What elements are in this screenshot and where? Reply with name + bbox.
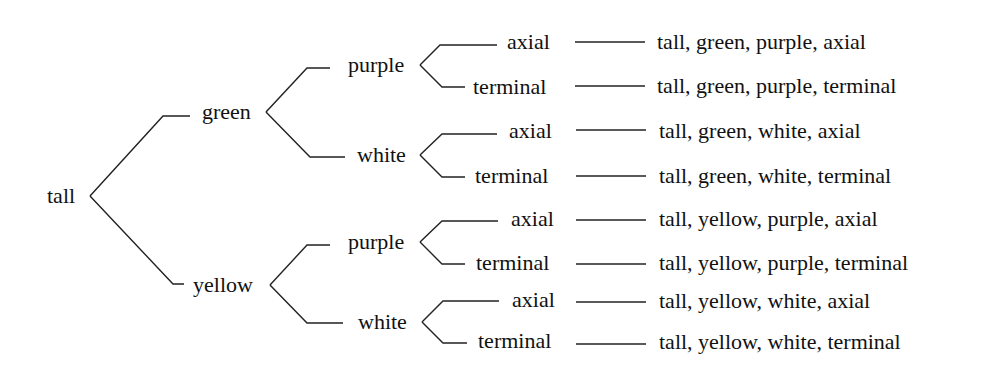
branch-gp-axial [420, 45, 497, 65]
branch-yw-terminal [422, 322, 467, 343]
branch-yp-axial [420, 221, 498, 242]
node-green: green [202, 101, 251, 123]
branch-tall-yellow [90, 196, 184, 284]
node-green-white: white [357, 144, 406, 166]
node-yellow: yellow [193, 274, 253, 296]
node-green-purple: purple [348, 54, 404, 76]
branch-yellow-purple [270, 245, 330, 285]
node-yellow-white: white [358, 311, 407, 333]
leaf-terminal-2: terminal [475, 165, 548, 187]
node-yellow-purple: purple [348, 231, 404, 253]
branch-green-white [266, 112, 345, 157]
leaf-terminal-4: terminal [478, 330, 551, 352]
node-tall: tall [47, 185, 75, 207]
outcome-4: tall, green, white, terminal [659, 165, 891, 187]
leaf-axial-2: axial [509, 120, 552, 142]
outcome-1: tall, green, purple, axial [657, 31, 866, 53]
branch-yw-axial [422, 301, 499, 322]
branch-gw-axial [420, 134, 497, 155]
branch-tall-green [90, 116, 190, 196]
branch-yp-terminal [420, 242, 465, 264]
branch-yellow-white [270, 285, 343, 323]
outcome-8: tall, yellow, white, terminal [659, 331, 901, 353]
outcome-5: tall, yellow, purple, axial [659, 208, 878, 230]
outcome-2: tall, green, purple, terminal [657, 75, 896, 97]
leaf-terminal-1: terminal [473, 76, 546, 98]
outcome-7: tall, yellow, white, axial [659, 290, 870, 312]
leaf-terminal-3: terminal [476, 252, 549, 274]
leaf-axial-1: axial [507, 31, 550, 53]
leaf-axial-3: axial [511, 208, 554, 230]
branch-gw-terminal [420, 155, 465, 177]
leaf-axial-4: axial [512, 289, 555, 311]
outcome-6: tall, yellow, purple, terminal [659, 252, 908, 274]
outcome-3: tall, green, white, axial [659, 120, 861, 142]
branch-green-purple [266, 68, 330, 112]
branch-gp-terminal [420, 65, 465, 87]
